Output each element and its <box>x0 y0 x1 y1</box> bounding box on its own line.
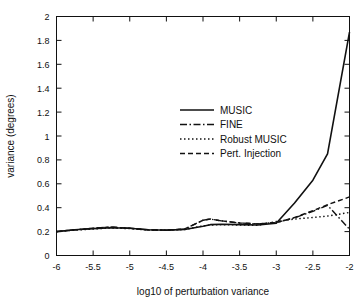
y-tick-label: 1.8 <box>37 36 50 46</box>
legend-label-music: MUSIC <box>220 105 252 116</box>
x-tick-label: -4 <box>199 262 207 272</box>
legend-label-pert-injection: Pert. Injection <box>220 148 281 159</box>
y-axis-title: variance (degrees) <box>5 94 16 177</box>
y-tick-label: 1.4 <box>37 84 50 94</box>
x-tick-label: -6 <box>52 262 60 272</box>
x-tick-label: -5 <box>126 262 134 272</box>
x-axis-title: log10 of perturbation variance <box>137 286 270 297</box>
line-chart: 00.20.40.60.811.21.41.61.82 -6-5.5-5-4.5… <box>0 0 363 305</box>
x-tick-label: -3.5 <box>232 262 248 272</box>
data-series-group <box>57 32 350 232</box>
chart-figure: 00.20.40.60.811.21.41.61.82 -6-5.5-5-4.5… <box>0 0 363 305</box>
y-tick-label: 1 <box>44 132 49 142</box>
y-tick-label: 0 <box>44 251 49 261</box>
legend-label-fine: FINE <box>220 119 243 130</box>
legend-label-robust-music: Robust MUSIC <box>220 134 287 145</box>
y-tick-label: 0.2 <box>37 227 50 237</box>
series-line-music <box>57 32 350 232</box>
y-tick-label: 0.4 <box>37 203 50 213</box>
x-axis-tick-labels: -6-5.5-5-4.5-4-3.5-3-2.5-2 <box>52 262 353 272</box>
x-tick-label: -3 <box>272 262 280 272</box>
y-tick-label: 0.8 <box>37 155 50 165</box>
series-line-robust-music <box>57 212 350 231</box>
x-tick-label: -2.5 <box>305 262 321 272</box>
y-tick-label: 2 <box>44 12 49 22</box>
x-tick-label: -4.5 <box>159 262 175 272</box>
y-tick-label: 1.2 <box>37 108 50 118</box>
x-tick-label: -5.5 <box>85 262 101 272</box>
y-axis-tick-labels: 00.20.40.60.811.21.41.61.82 <box>37 12 50 261</box>
chart-legend: MUSICFINERobust MUSICPert. Injection <box>180 105 287 160</box>
y-tick-label: 1.6 <box>37 60 50 70</box>
x-tick-label: -2 <box>345 262 353 272</box>
y-tick-label: 0.6 <box>37 179 50 189</box>
